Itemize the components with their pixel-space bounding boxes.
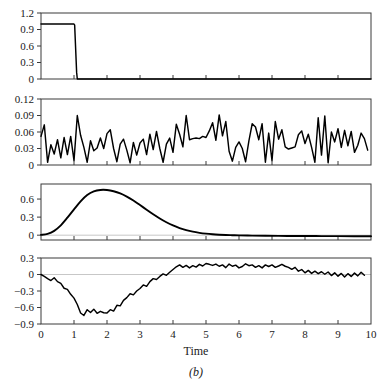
y-tick-label: 0.3 bbox=[20, 211, 34, 223]
x-tick-label: 4 bbox=[170, 328, 176, 340]
y-tick-label: −0.9 bbox=[14, 318, 34, 330]
x-tick-label: 1 bbox=[71, 328, 77, 340]
y-tick-label: 0.03 bbox=[15, 142, 35, 154]
x-tick-label: 8 bbox=[302, 328, 308, 340]
panel-1: 00.30.60.91.2 bbox=[20, 7, 371, 85]
y-tick-label: −0.3 bbox=[14, 285, 34, 297]
y-tick-label: 0.3 bbox=[20, 56, 34, 68]
plot-frame bbox=[41, 13, 371, 79]
x-tick-label: 0 bbox=[38, 328, 44, 340]
y-tick-label: 0.3 bbox=[20, 252, 34, 264]
data-trace bbox=[41, 24, 371, 79]
figure-container: 00.30.60.91.200.030.060.090.1200.30.6−0.… bbox=[0, 0, 386, 381]
y-tick-label: 0.6 bbox=[20, 193, 34, 205]
panel-4: −0.9−0.6−0.300.3012345678910 bbox=[14, 252, 377, 340]
panels-group: 00.30.60.91.200.030.060.090.1200.30.6−0.… bbox=[14, 7, 377, 340]
y-tick-label: 0.6 bbox=[20, 40, 34, 52]
panel-3: 00.30.6 bbox=[20, 184, 371, 241]
y-tick-label: 0.06 bbox=[15, 126, 35, 138]
y-tick-label: 0.12 bbox=[15, 93, 34, 105]
figure-caption: (b) bbox=[189, 365, 203, 379]
x-tick-label: 3 bbox=[137, 328, 143, 340]
y-tick-label: 0 bbox=[29, 159, 35, 171]
y-tick-label: 0 bbox=[29, 229, 35, 241]
y-tick-label: 1.2 bbox=[20, 7, 34, 19]
y-tick-label: 0.9 bbox=[20, 23, 34, 35]
data-trace bbox=[41, 264, 364, 316]
x-tick-label: 6 bbox=[236, 328, 242, 340]
x-tick-label: 5 bbox=[203, 328, 209, 340]
y-tick-label: 0.09 bbox=[15, 109, 35, 121]
y-tick-label: 0 bbox=[29, 268, 35, 280]
x-tick-label: 10 bbox=[366, 328, 378, 340]
multi-panel-time-series-figure: 00.30.60.91.200.030.060.090.1200.30.6−0.… bbox=[0, 0, 386, 381]
x-tick-label: 2 bbox=[104, 328, 110, 340]
x-axis-label: Time bbox=[184, 344, 209, 358]
data-trace bbox=[41, 190, 371, 236]
x-tick-label: 7 bbox=[269, 328, 275, 340]
plot-frame bbox=[41, 258, 371, 324]
panel-2: 00.030.060.090.12 bbox=[15, 93, 371, 171]
y-tick-label: 0 bbox=[29, 73, 35, 85]
data-trace bbox=[41, 115, 368, 163]
y-tick-label: −0.6 bbox=[14, 301, 34, 313]
x-tick-label: 9 bbox=[335, 328, 341, 340]
